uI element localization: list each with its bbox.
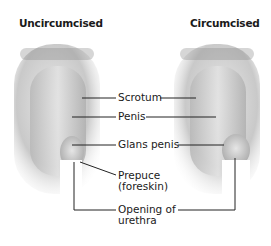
right-title: Circumcised: [190, 17, 260, 29]
label-foreskin: (foreskin): [118, 181, 168, 192]
left-title: Uncircumcised: [19, 17, 103, 29]
label-urethra: urethra: [118, 215, 157, 226]
left-illustration: [14, 44, 100, 200]
label-scrotum: Scrotum: [118, 92, 162, 103]
label-glans-penis: Glans penis: [118, 139, 179, 150]
right-illustration: [174, 44, 260, 200]
label-penis: Penis: [118, 111, 145, 122]
anatomy-comparison-diagram: Uncircumcised Circumcised Scrotum Penis …: [0, 0, 271, 246]
